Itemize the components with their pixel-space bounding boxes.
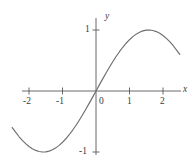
plot-area bbox=[0, 0, 193, 166]
x-axis-label: x bbox=[183, 85, 187, 95]
y-axis-label: y bbox=[105, 12, 109, 22]
sine-curve-figure: y x 1 -1 -2 -1 0 1 2 bbox=[0, 0, 193, 166]
y-tick-label-1: 1 bbox=[85, 25, 90, 35]
y-tick-label-neg1: -1 bbox=[79, 147, 87, 157]
x-tick-label-2: 2 bbox=[160, 97, 165, 107]
x-tick-label-neg1: -1 bbox=[56, 97, 64, 107]
x-tick-label-1: 1 bbox=[127, 97, 132, 107]
x-tick-label-zero: 0 bbox=[99, 97, 104, 107]
x-tick-label-neg2: -2 bbox=[23, 97, 31, 107]
